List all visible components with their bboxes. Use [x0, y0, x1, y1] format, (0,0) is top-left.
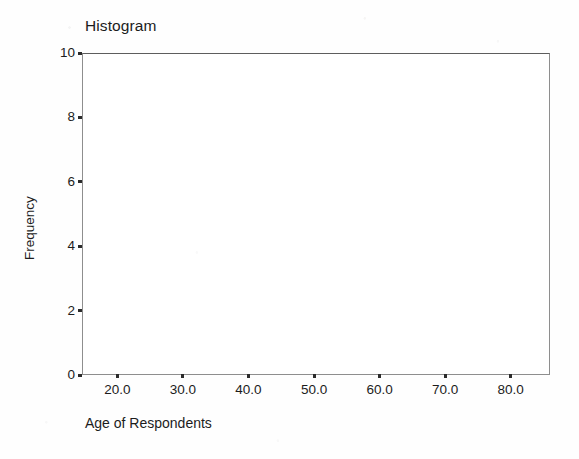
y-tick-mark [78, 309, 82, 312]
y-tick-label: 0 [67, 366, 75, 383]
chart-title: Histogram [85, 16, 157, 35]
y-tick-mark [78, 245, 82, 248]
x-tick-label: 70.0 [432, 381, 458, 398]
x-tick-mark [247, 374, 250, 378]
y-tick-label: 4 [67, 237, 75, 254]
x-tick-mark [116, 374, 119, 378]
x-tick-label: 80.0 [498, 381, 524, 398]
x-tick-mark [378, 374, 381, 378]
y-tick-mark [78, 180, 82, 183]
plot-area [83, 54, 549, 374]
x-tick-label: 40.0 [235, 381, 261, 398]
y-axis: 1086420 [0, 53, 82, 375]
x-tick-mark [444, 374, 447, 378]
y-tick-label: 6 [67, 173, 75, 190]
x-tick-label: 20.0 [104, 381, 130, 398]
x-axis: 20.030.040.050.060.070.080.0 [82, 375, 550, 405]
x-tick-mark [509, 374, 512, 378]
histogram-figure: Histogram 1086420 Frequency 20.030.040.0… [0, 0, 579, 459]
y-tick-label: 2 [67, 302, 75, 319]
y-axis-title: Frequency [22, 242, 38, 260]
x-tick-label: 60.0 [366, 381, 392, 398]
x-tick-label: 30.0 [170, 381, 196, 398]
x-tick-mark [313, 374, 316, 378]
y-tick-label: 10 [60, 44, 75, 61]
x-axis-title: Age of Respondents [85, 414, 212, 432]
y-tick-label: 8 [67, 108, 75, 125]
x-tick-mark [181, 374, 184, 378]
plot-frame [82, 53, 550, 375]
y-tick-mark [78, 52, 82, 55]
x-tick-label: 50.0 [301, 381, 327, 398]
y-tick-mark [78, 116, 82, 119]
